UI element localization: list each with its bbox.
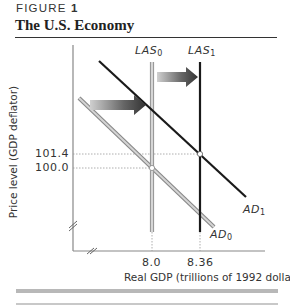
new-equilibrium-point [197,151,202,156]
x-axis-label: Real GDP (trillions of 1992 dollar) [124,271,290,283]
ad0-curve [79,98,214,227]
las1-label-base: LAS [188,44,210,57]
ad1-label-sub: 1 [260,208,266,217]
las1-label-sub: 1 [210,49,216,58]
reference-lines [73,154,200,251]
initial-equilibrium-point [149,165,154,170]
x-tick-8-0: 8.0 [142,256,161,269]
bottom-divider-thick [16,289,278,293]
x-tick-8-36: 8.36 [187,256,214,269]
las0-label-sub: 0 [157,49,163,58]
ad0-label-base: AD [210,228,227,241]
y-tick-101-4: 101.4 [35,147,69,160]
ad0-label-sub: 0 [227,233,233,242]
y-axis-label: Price level (GDP deflator) [7,86,19,218]
las0-label: LAS0 [135,44,163,58]
las1-label: LAS1 [188,44,216,58]
ad1-label: AD1 [243,203,266,217]
ad1-label-base: AD [243,203,260,216]
ad0-label: AD0 [210,228,233,242]
las-shift-arrow-icon [157,67,198,87]
y-tick-100-0: 100.0 [35,161,69,174]
bottom-divider-thin [16,303,278,305]
las0-label-base: LAS [135,44,157,57]
